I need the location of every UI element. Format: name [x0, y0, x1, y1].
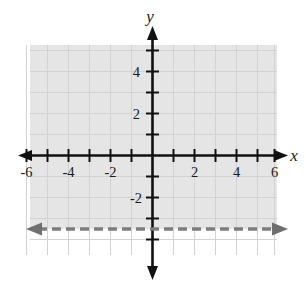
graph-canvas: -6 -4 -2 2 4 6 4 2 -2 y x: [0, 0, 306, 288]
y-axis-bottom-arrow: [147, 266, 158, 280]
x-axis-left-arrow: [18, 150, 32, 161]
y-axis-top-arrow: [147, 26, 158, 40]
x-axis-letter-label: x: [289, 146, 298, 165]
x-tick-label-neg2: -2: [104, 164, 116, 180]
x-tick-label-neg4: -4: [62, 164, 75, 180]
x-tick-label-4: 4: [233, 164, 241, 180]
coordinate-plane-figure: -6 -4 -2 2 4 6 4 2 -2 y x: [0, 0, 306, 288]
y-tick-label-2: 2: [133, 106, 140, 122]
y-axis-letter-label: y: [144, 7, 154, 26]
y-tick-label-4: 4: [133, 64, 141, 80]
y-tick-label-neg2: -2: [130, 190, 142, 206]
x-axis-right-arrow: [274, 150, 288, 161]
x-tick-label-2: 2: [191, 164, 198, 180]
x-tick-label-neg6: -6: [20, 164, 32, 180]
x-tick-label-6: 6: [271, 164, 278, 180]
boundary-right-arrow: [272, 223, 288, 236]
